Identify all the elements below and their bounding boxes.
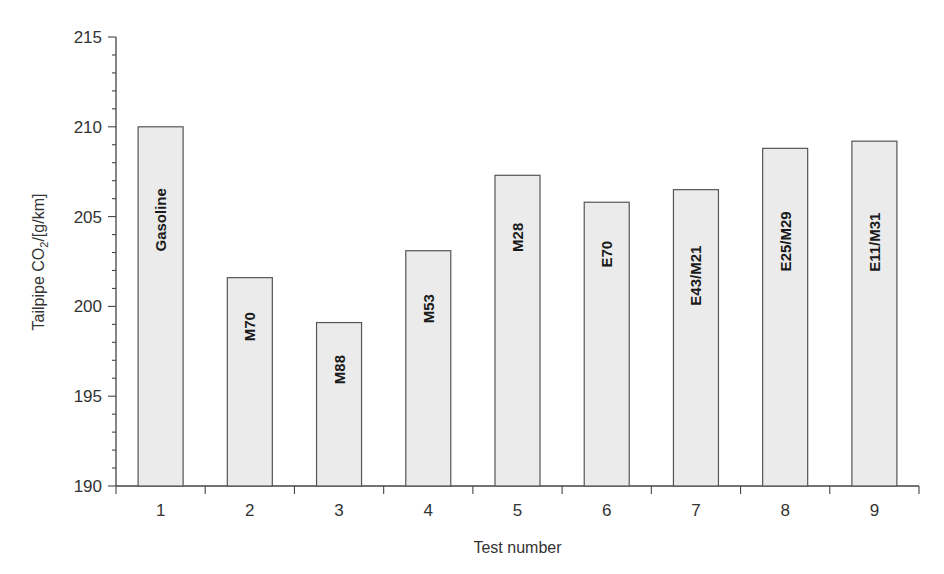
y-tick-label: 190: [74, 477, 102, 496]
bar-label: M28: [509, 223, 526, 252]
x-tick-label: 4: [424, 501, 433, 520]
x-tick-label: 7: [691, 501, 700, 520]
axis-titles: Test numberTailpipe CO2/[g/km]: [30, 194, 562, 556]
bar-label: E11/M31: [866, 213, 883, 272]
bar-rect: [673, 190, 718, 486]
y-tick-label: 200: [74, 297, 102, 316]
bar-rect: [763, 148, 808, 486]
y-axis: 190195200205210215: [74, 28, 116, 496]
bar-9: E11/M31: [852, 141, 897, 486]
bar-label: E25/M29: [777, 211, 794, 271]
x-tick-label: 3: [334, 501, 343, 520]
bar-rect: [406, 251, 451, 486]
x-tick-label: 2: [245, 501, 254, 520]
bar-1: Gasoline: [138, 127, 183, 486]
bar-label: M88: [331, 355, 348, 384]
x-tick-label: 1: [156, 501, 165, 520]
bar-2: M70: [227, 278, 272, 486]
bar-4: M53: [406, 251, 451, 486]
bar-rect: [852, 141, 897, 486]
bar-label: M53: [420, 294, 437, 323]
bar-rect: [495, 175, 540, 486]
bar-label: E43/M21: [687, 246, 704, 306]
x-axis-title: Test number: [473, 539, 562, 556]
bar-rect: [138, 127, 183, 486]
x-tick-label: 9: [870, 501, 879, 520]
bars: GasolineM70M88M53M28E70E43/M21E25/M29E11…: [138, 127, 897, 486]
bar-8: E25/M29: [763, 148, 808, 486]
y-tick-label: 215: [74, 28, 102, 47]
y-axis-title-unit: /[g/km]: [30, 194, 47, 242]
x-tick-label: 5: [513, 501, 522, 520]
bar-7: E43/M21: [673, 190, 718, 486]
bar-rect: [317, 323, 362, 486]
y-axis-title: Tailpipe CO2/[g/km]: [30, 194, 50, 331]
x-tick-label: 8: [780, 501, 789, 520]
y-tick-label: 205: [74, 208, 102, 227]
bar-3: M88: [317, 323, 362, 486]
bar-chart: 190195200205210215 123456789 GasolineM70…: [0, 0, 944, 574]
y-tick-label: 195: [74, 387, 102, 406]
y-tick-label: 210: [74, 118, 102, 137]
bar-label: Gasoline: [152, 188, 169, 251]
y-axis-title-main: Tailpipe CO: [30, 248, 47, 331]
bar-label: M70: [241, 312, 258, 341]
x-axis: 123456789: [116, 486, 919, 520]
bar-6: E70: [584, 202, 629, 486]
bar-rect: [227, 278, 272, 486]
bar-5: M28: [495, 175, 540, 486]
bar-label: E70: [598, 241, 615, 268]
x-tick-label: 6: [602, 501, 611, 520]
